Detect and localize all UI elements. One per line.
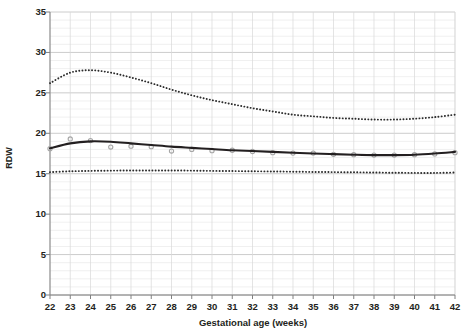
chart-container: RDW 05101520253035 222324252627282930313… xyxy=(0,0,466,336)
x-axis-tick-label: 42 xyxy=(445,301,465,312)
x-axis-tick-label: 41 xyxy=(425,301,445,312)
x-axis-tick-label: 23 xyxy=(60,301,80,312)
x-axis-tick-label: 29 xyxy=(182,301,202,312)
x-axis-title: Gestational age (weeks) xyxy=(50,317,456,328)
x-axis-tick-label: 35 xyxy=(303,301,323,312)
x-axis-tick-label: 37 xyxy=(344,301,364,312)
x-axis-tick-label: 22 xyxy=(40,301,60,312)
x-axis-tick-label: 40 xyxy=(405,301,425,312)
x-axis-tick-labels: 2223242526272829303132333435363738394041… xyxy=(0,0,466,336)
x-axis-tick-label: 33 xyxy=(263,301,283,312)
x-axis-tick-label: 25 xyxy=(101,301,121,312)
x-axis-tick-label: 36 xyxy=(324,301,344,312)
x-axis-tick-label: 39 xyxy=(384,301,404,312)
x-axis-tick-label: 24 xyxy=(81,301,101,312)
x-axis-tick-label: 38 xyxy=(364,301,384,312)
x-axis-tick-label: 28 xyxy=(162,301,182,312)
x-axis-tick-label: 27 xyxy=(141,301,161,312)
x-axis-tick-label: 31 xyxy=(222,301,242,312)
x-axis-tick-label: 26 xyxy=(121,301,141,312)
x-axis-tick-label: 34 xyxy=(283,301,303,312)
x-axis-tick-label: 32 xyxy=(243,301,263,312)
x-axis-tick-label: 30 xyxy=(202,301,222,312)
